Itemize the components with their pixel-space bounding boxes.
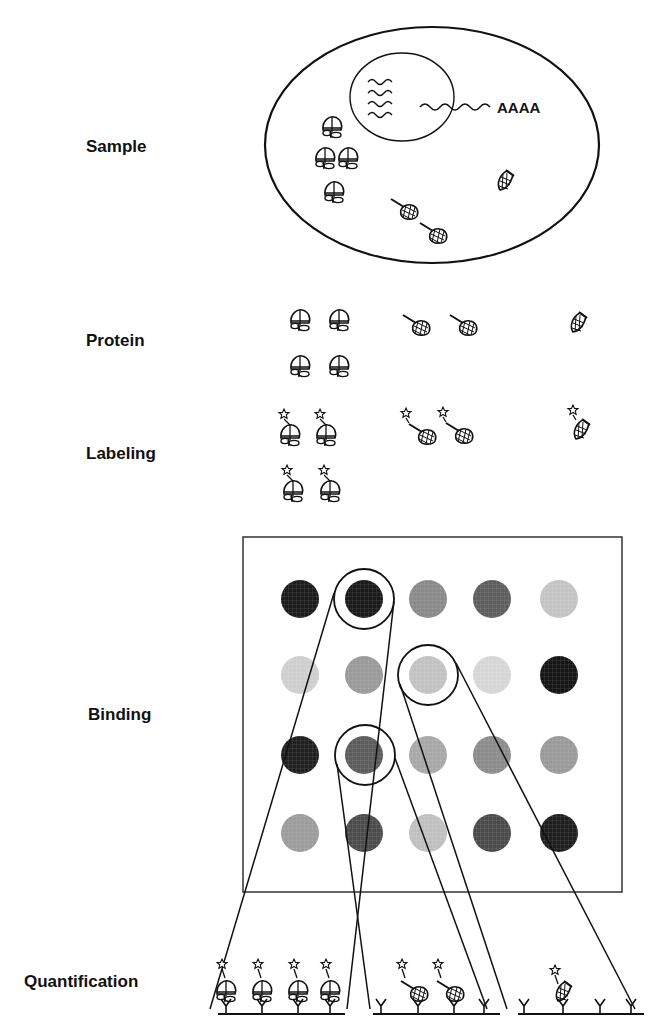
step-label-sample: Sample xyxy=(86,137,146,156)
panel-globular xyxy=(217,959,345,1014)
labeled-tailed-protein xyxy=(438,407,473,443)
fluorescent-label-star-icon xyxy=(282,465,292,474)
tailed-protein-icon xyxy=(401,981,428,1001)
quantification-panels xyxy=(217,959,644,1014)
tailed-protein-icon xyxy=(403,315,430,335)
labeled-proteins xyxy=(279,405,590,502)
cone-protein-icon xyxy=(574,419,590,439)
tailed-protein-icon xyxy=(409,424,436,444)
fluorescent-label-star-icon xyxy=(433,959,443,968)
bound-globular-protein xyxy=(253,959,272,1014)
globular-protein-icon xyxy=(291,356,310,377)
cone-protein-icon xyxy=(556,981,572,1001)
fluorescent-label-star-icon xyxy=(279,409,289,418)
fluorescent-label-star-icon xyxy=(253,959,263,968)
labeled-globular-protein xyxy=(319,465,340,502)
isolated-proteins xyxy=(291,310,587,377)
fluorescent-label-star-icon xyxy=(568,405,578,414)
globular-protein-icon xyxy=(281,425,300,446)
fluorescent-label-star-icon xyxy=(397,959,407,968)
labeled-globular-protein xyxy=(282,465,303,502)
cell-membrane xyxy=(265,27,599,263)
step-labels: SampleProteinLabelingBindingQuantificati… xyxy=(24,137,156,991)
globular-protein-icon xyxy=(321,981,340,1002)
bound-globular-protein xyxy=(321,959,340,1014)
capture-antibody-icon xyxy=(595,999,605,1014)
globular-protein-icon xyxy=(330,356,349,377)
labeled-globular-protein xyxy=(315,409,336,446)
fluorescent-label-star-icon xyxy=(550,965,560,974)
cell-sample: AAAA xyxy=(265,27,599,263)
globular-protein-icon xyxy=(325,182,344,203)
fluorescent-label-star-icon xyxy=(438,407,448,416)
panel-tailed xyxy=(373,959,500,1014)
fluorescent-label-star-icon xyxy=(217,959,227,968)
polya-tail-label: AAAA xyxy=(497,99,540,116)
capture-antibody-icon xyxy=(376,999,386,1014)
globular-protein-icon xyxy=(291,310,310,331)
globular-protein-icon xyxy=(284,481,303,502)
globular-protein-icon xyxy=(253,981,272,1002)
globular-protein-icon xyxy=(289,981,308,1002)
zoom-connector-3 xyxy=(337,764,370,1009)
globular-protein-icon xyxy=(317,425,336,446)
nucleus xyxy=(350,53,454,141)
bound-globular-protein xyxy=(217,959,236,1014)
protein-rows xyxy=(279,310,590,502)
tailed-protein-icon xyxy=(450,315,477,335)
zoom-connector-4 xyxy=(395,758,487,1009)
bound-tailed-protein xyxy=(397,959,428,1014)
step-label-protein: Protein xyxy=(86,331,145,350)
fluorescent-label-star-icon xyxy=(319,465,329,474)
tailed-protein-icon xyxy=(446,423,473,443)
globular-protein-icon xyxy=(321,481,340,502)
zoom-connector-1 xyxy=(210,593,334,1009)
globular-protein-icon xyxy=(330,310,349,331)
bound-globular-protein xyxy=(289,959,308,1014)
cone-protein-icon xyxy=(498,170,514,190)
microarray xyxy=(243,537,622,892)
globular-protein-icon xyxy=(217,981,236,1002)
bound-tailed-protein xyxy=(433,959,464,1014)
connector-lines xyxy=(210,593,635,1009)
globular-protein-icon xyxy=(316,148,335,169)
labeled-tailed-protein xyxy=(401,408,436,444)
fluorescent-label-star-icon xyxy=(321,959,331,968)
mrna-strand xyxy=(420,104,490,110)
step-label-binding: Binding xyxy=(88,705,151,724)
step-label-labeling: Labeling xyxy=(86,444,156,463)
fluorescent-label-star-icon xyxy=(401,408,411,417)
capture-antibody-icon xyxy=(519,999,529,1014)
globular-protein-icon xyxy=(339,148,358,169)
labeled-cone-protein xyxy=(568,405,590,439)
tailed-protein-icon xyxy=(437,981,464,1001)
labeled-globular-protein xyxy=(279,409,300,446)
fluorescent-label-star-icon xyxy=(315,409,325,418)
step-label-quantification: Quantification xyxy=(24,972,138,991)
bound-cone-protein xyxy=(550,965,572,1014)
globular-protein-icon xyxy=(323,117,342,138)
tailed-protein-icon xyxy=(391,199,418,219)
cone-protein-icon xyxy=(571,312,587,332)
dna-strands xyxy=(368,80,392,118)
fluorescent-label-star-icon xyxy=(289,959,299,968)
protein-microarray-diagram: SampleProteinLabelingBindingQuantificati… xyxy=(0,0,663,1033)
tailed-protein-icon xyxy=(420,223,447,243)
